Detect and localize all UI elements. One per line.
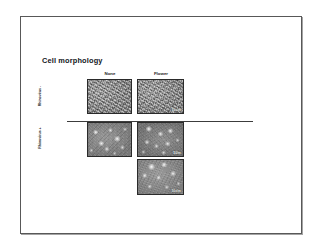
micrograph-scale-label: 10x/m	[171, 189, 181, 193]
micrograph-panel-flower-rhinovirus-positive-2: 10x/m	[137, 159, 184, 195]
row-label-rhinovirus-positive: Rhinovirus +	[38, 117, 42, 159]
micrograph-scale-label: 10x/m	[171, 108, 181, 112]
micrograph-texture	[88, 123, 131, 156]
micrograph-panel-flower-rhinovirus-positive: 50/m	[137, 122, 184, 157]
cell-morphology-figure: None Flower Rhinovirus - Rhinovirus + 10…	[21, 17, 301, 233]
row-label-rhinovirus-negative: Rhinovirus -	[38, 75, 42, 117]
slide-canvas: Cell morphology None Flower Rhinovirus -…	[20, 16, 302, 234]
micrograph-texture	[88, 80, 131, 113]
column-header-none: None	[87, 71, 133, 76]
micrograph-panel-none-rhinovirus-positive	[87, 122, 132, 157]
micrograph-scale-label: 50/m	[173, 151, 181, 155]
column-header-flower: Flower	[137, 71, 185, 76]
micrograph-panel-none-rhinovirus-negative	[87, 79, 132, 114]
micrograph-panel-flower-rhinovirus-negative: 10x/m	[137, 79, 184, 114]
